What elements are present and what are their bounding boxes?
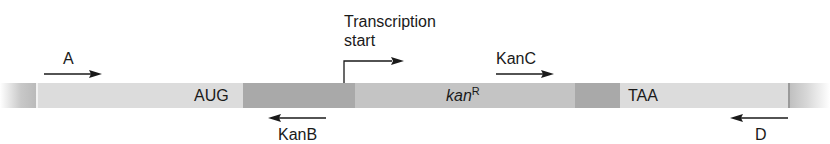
gene-superscript: R <box>472 85 480 97</box>
promoter-region <box>243 83 355 108</box>
gene-label: kanR <box>446 83 480 108</box>
stop-codon-label: TAA <box>628 83 658 108</box>
flanking-region-right-fade <box>790 83 830 108</box>
start-codon-label: AUG <box>194 83 229 108</box>
primer-a-label: A <box>63 51 74 67</box>
transcription-start-label-line1: Transcription <box>344 14 436 30</box>
primer-a-arrow-right-icon <box>42 68 104 80</box>
primer-d-arrow-left-icon <box>728 112 790 124</box>
terminator-region <box>575 83 620 108</box>
primer-kanc-label: KanC <box>496 51 536 67</box>
transcription-start-bent-arrow-icon <box>340 54 406 84</box>
primer-kanc-arrow-right-icon <box>494 68 556 80</box>
primer-kanb-label: KanB <box>278 127 317 143</box>
transcription-start-label-line2: start <box>344 33 375 49</box>
primer-d-label: D <box>755 127 767 143</box>
gene-name: kan <box>446 87 472 104</box>
flanking-region-left-fade <box>0 83 38 108</box>
primer-kanb-arrow-left-icon <box>266 112 328 124</box>
